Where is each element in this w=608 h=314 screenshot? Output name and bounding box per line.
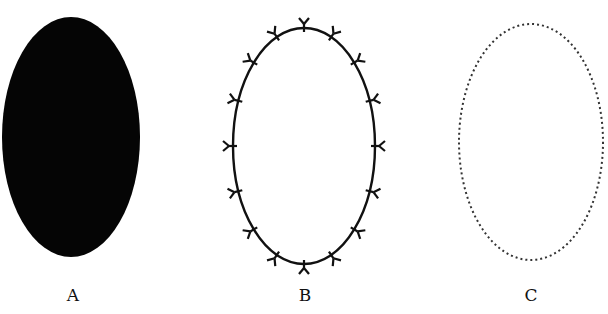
- y-marker: [365, 94, 381, 107]
- y-marker: [227, 185, 243, 198]
- y-marker: [223, 141, 237, 151]
- y-marker: [299, 260, 309, 274]
- figure-a: A: [2, 17, 140, 305]
- y-marker: [365, 185, 381, 198]
- label-a: A: [66, 285, 80, 305]
- y-marker: [299, 18, 309, 32]
- y-markers: [223, 18, 385, 274]
- diagram-canvas: A B C: [0, 0, 608, 314]
- figure-b: B: [223, 18, 385, 305]
- label-c: C: [524, 285, 537, 305]
- filled-ellipse: [2, 17, 140, 257]
- figure-c: C: [459, 24, 603, 305]
- dotted-ellipse: [459, 24, 603, 260]
- y-marker: [227, 94, 243, 107]
- y-marker: [371, 141, 385, 151]
- label-b: B: [299, 285, 312, 305]
